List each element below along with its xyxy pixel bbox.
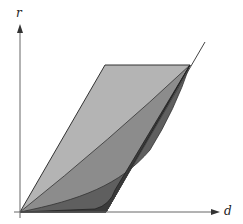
x-axis-arrow-icon [211,209,220,215]
diagram-canvas: r d [0,0,243,224]
y-axis-label: r [16,6,22,20]
y-axis-arrow-icon [17,24,23,33]
region-plot-svg [0,0,243,224]
x-axis-label: d [224,204,232,218]
